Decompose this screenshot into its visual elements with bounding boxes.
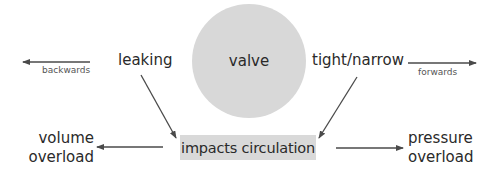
volume-overload-label: volume overload (26, 129, 94, 167)
impacts-circulation-label: impacts circulation (181, 140, 315, 156)
volume-overload-line1: volume (26, 129, 94, 148)
volume-overload-line2: overload (26, 148, 94, 167)
pressure-overload-line2: overload (408, 148, 474, 167)
forwards-label: forwards (418, 67, 457, 77)
leaking-label: leaking (118, 51, 172, 70)
valve-node: valve (192, 4, 306, 118)
impacts-circulation-node: impacts circulation (180, 135, 316, 160)
pressure-overload-line1: pressure (408, 129, 474, 148)
backwards-label: backwards (42, 65, 90, 75)
valve-diagram: valve leaking backwards tight/narrow for… (0, 0, 496, 182)
tight-to-impact-arrow (319, 77, 357, 138)
valve-label: valve (229, 52, 269, 70)
pressure-overload-label: pressure overload (408, 129, 474, 167)
leaking-to-impact-arrow (141, 75, 176, 138)
tight-narrow-label: tight/narrow (312, 51, 404, 70)
